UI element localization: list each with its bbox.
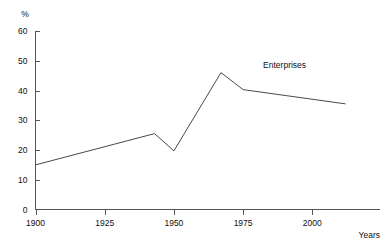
y-tick-label: 30: [18, 115, 28, 125]
x-tick-label: 2000: [303, 218, 322, 228]
series-annotations: Enterprises: [263, 60, 306, 70]
y-axis-ticks: 0102030405060: [18, 26, 39, 215]
y-tick-label: 40: [18, 86, 28, 96]
x-tick-label: 1900: [26, 218, 45, 228]
y-tick-label: 0: [23, 205, 28, 215]
x-tick-label: 1925: [95, 218, 114, 228]
x-axis-ticks: 19001925195019752000: [26, 210, 322, 228]
y-tick-label: 50: [18, 56, 28, 66]
line-chart: % 0102030405060 19001925195019752000 Ent…: [0, 0, 386, 244]
series-line-enterprises: [36, 73, 346, 165]
y-tick-label: 20: [18, 145, 28, 155]
y-axis-unit-label: %: [21, 9, 29, 19]
chart-container: % 0102030405060 19001925195019752000 Ent…: [0, 0, 386, 244]
x-axis-title: Years: [359, 230, 380, 240]
y-tick-label: 10: [18, 175, 28, 185]
x-tick-label: 1950: [164, 218, 183, 228]
x-tick-label: 1975: [234, 218, 253, 228]
series-label-enterprises: Enterprises: [263, 60, 306, 70]
data-series-group: [36, 73, 346, 165]
y-tick-label: 60: [18, 26, 28, 36]
